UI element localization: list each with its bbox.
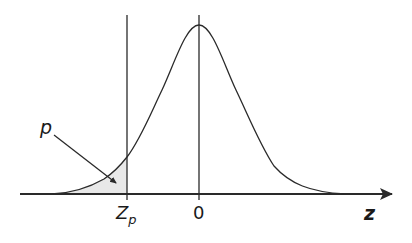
z-axis-label: z (364, 204, 375, 223)
normal-distribution-diagram: p Zp 0 z (0, 0, 412, 243)
diagram-canvas (0, 0, 412, 243)
zp-label: Zp (116, 204, 137, 222)
p-label: p (40, 118, 52, 137)
zp-main: Z (116, 202, 128, 223)
zp-subscript: p (128, 212, 136, 227)
p-pointer-arrow (54, 135, 116, 183)
zero-label: 0 (193, 204, 204, 222)
